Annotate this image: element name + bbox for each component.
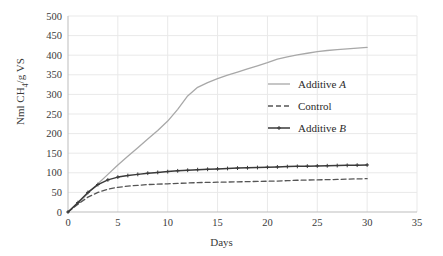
x-tick-label: 15: [212, 217, 223, 228]
x-tick-label: 10: [162, 217, 173, 228]
y-tick-label: 350: [46, 69, 62, 80]
x-tick-label: 5: [115, 217, 120, 228]
y-tick-label: 300: [46, 89, 62, 100]
y-tick-label: 500: [46, 11, 62, 22]
y-tick-label: 0: [57, 207, 62, 218]
y-tick-label: 100: [46, 167, 62, 178]
chart-legend: Additive AControlAdditive B: [268, 78, 346, 134]
y-tick-label: 200: [46, 128, 62, 139]
y-tick-label: 400: [46, 50, 62, 61]
x-axis-tick-labels: 05101520253035: [65, 217, 422, 228]
gridlines: [68, 16, 417, 212]
legend-label-additive-a: Additive A: [298, 78, 346, 90]
x-tick-label: 35: [412, 217, 423, 228]
x-tick-label: 30: [362, 217, 373, 228]
y-tick-label: 50: [52, 187, 63, 198]
y-tick-label: 150: [46, 148, 62, 159]
y-tick-label: 250: [46, 109, 62, 120]
x-tick-label: 0: [65, 217, 70, 228]
chart-canvas: 050100150200250300350400450500 051015202…: [0, 0, 443, 256]
legend-label-additive-b: Additive B: [298, 122, 346, 134]
legend-label-control: Control: [298, 100, 332, 112]
y-axis-tick-labels: 050100150200250300350400450500: [46, 11, 62, 218]
x-tick-label: 25: [312, 217, 323, 228]
y-tick-label: 450: [46, 30, 62, 41]
x-tick-label: 20: [262, 217, 273, 228]
chart-figure: Nml CH4/g VS Days 0501001502002503003504…: [0, 0, 443, 256]
